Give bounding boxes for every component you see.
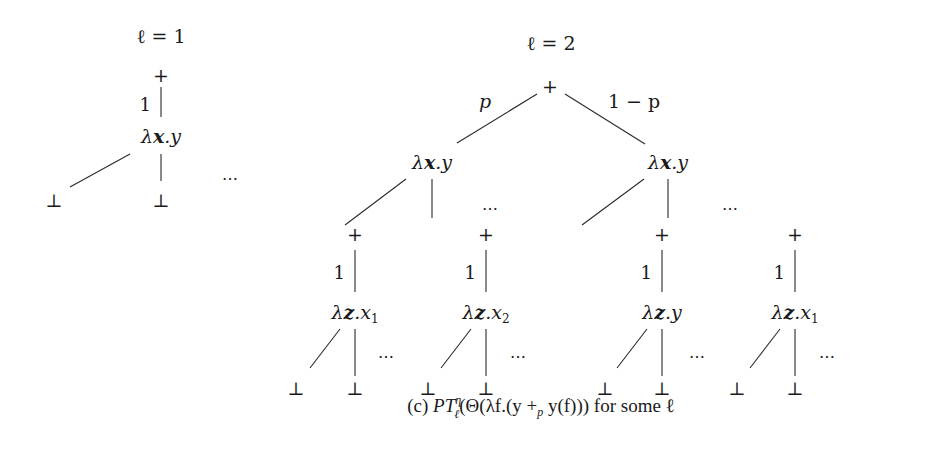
subtree-leaf: ⊥ (347, 378, 364, 399)
tree-l2-edge-left-label: p (479, 90, 491, 112)
subtree-plus: + (787, 223, 803, 245)
subtree-leaf-edge-left (750, 329, 780, 368)
tree-l2-mid-ellipsis: … (482, 195, 498, 214)
subtree-4: + 1 λz.x1 ⊥ ⊥ … (729, 223, 835, 399)
subtree-plus: + (478, 223, 494, 245)
subtree-leaf: ⊥ (288, 378, 305, 399)
tree-l1-lambda-node: λx.y (140, 125, 181, 147)
subtree-leaf-edge-left (617, 329, 647, 368)
figure-caption: (c) PTηℓ(Θ(λf.(y +p y(f))) for some ℓ (407, 393, 674, 421)
subtree-ellipsis: … (378, 343, 394, 362)
tree-l1-ellipsis: … (222, 165, 238, 184)
subtree-lambda-node: λz.y (641, 301, 682, 323)
subtree-ellipsis: … (819, 343, 835, 362)
subtree-plus: + (654, 223, 670, 245)
subtree-edge-label: 1 (334, 262, 345, 283)
tree-l1: ℓ = 1 + 1 λx.y ⊥ ⊥ … (46, 25, 238, 211)
subtree-edge-label: 1 (465, 262, 476, 283)
subtree-plus: + (347, 223, 363, 245)
tree-l2-edge-right-label: 1 − p (608, 90, 660, 112)
tree-l1-leaf-bottom: ⊥ (153, 190, 170, 211)
subtree-ellipsis: … (689, 343, 705, 362)
tree-l1-leaf-bottom: ⊥ (46, 190, 63, 211)
tree-l2-title: ℓ = 2 (526, 32, 575, 54)
tree-l2-left-lambda-node: λx.y (411, 151, 452, 173)
tree-l2-right-lambda-node: λx.y (647, 151, 688, 173)
subtree-lambda-node: λz.x1 (770, 301, 818, 326)
subtree-ellipsis: … (510, 343, 526, 362)
edge-left-to-sub1 (345, 179, 406, 225)
tree-l2-right-ellipsis: … (722, 195, 738, 214)
tree-l1-edge-label: 1 (140, 94, 151, 115)
subtree-2: + 1 λz.x2 ⊥ ⊥ … (420, 223, 526, 399)
subtree-1: + 1 λz.x1 ⊥ ⊥ … (288, 223, 394, 399)
subtree-edge-label: 1 (774, 262, 785, 283)
subtree-leaf: ⊥ (787, 378, 804, 399)
tree-l1-root-plus: + (153, 64, 169, 86)
tree-l1-title: ℓ = 1 (136, 25, 185, 47)
tree-l2: ℓ = 2 + p 1 − p λx.y λx.y … … + 1 λz.x1 … (288, 32, 835, 399)
probabilistic-tree-figure: ℓ = 1 + 1 λx.y ⊥ ⊥ … ℓ = 2 + p 1 − p λx.… (0, 0, 929, 453)
tree-l1-edge-left (70, 154, 130, 187)
subtree-leaf-edge-left (310, 329, 340, 368)
tree-l2-edge-left (457, 94, 537, 143)
tree-l2-root-plus: + (542, 75, 558, 97)
subtree-edge-label: 1 (641, 262, 652, 283)
edge-right-to-sub3 (582, 179, 644, 225)
subtree-leaf: ⊥ (729, 378, 746, 399)
subtree-3: + 1 λz.y ⊥ ⊥ … (597, 223, 705, 399)
subtree-leaf-edge-left (441, 329, 471, 368)
subtree-lambda-node: λz.x2 (461, 301, 509, 326)
subtree-lambda-node: λz.x1 (330, 301, 378, 326)
